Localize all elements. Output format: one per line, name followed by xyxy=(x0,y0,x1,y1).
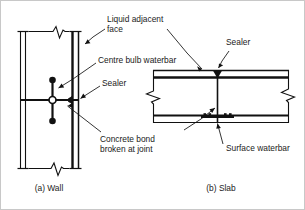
technical-diagram: (a) Wall Liquid adjacent face Centre bul… xyxy=(1,1,305,210)
wall-top-break-symbol xyxy=(29,27,70,39)
wall-annotations: Liquid adjacent face Centre bulb waterba… xyxy=(59,14,177,154)
concrete-bond-label-line1: Concrete bond xyxy=(100,134,155,144)
slab-diagram: (b) Slab xyxy=(147,70,295,193)
wall-sealer-label: Sealer xyxy=(102,78,126,88)
centre-bulb-waterbar-leader xyxy=(59,63,97,88)
liquid-adjacent-face-leader xyxy=(85,29,105,44)
wall-sealer-symbol xyxy=(67,96,73,105)
figure-container: (a) Wall Liquid adjacent face Centre bul… xyxy=(0,0,305,210)
concrete-bond-label-line2: broken at joint xyxy=(100,144,153,154)
surface-waterbar-leader xyxy=(216,124,223,145)
liquid-adjacent-face-slab-leader xyxy=(167,29,202,72)
wall-bottom-break-symbol xyxy=(29,163,70,176)
centre-bulb-waterbar-symbol xyxy=(49,77,56,125)
surface-waterbar-label: Surface waterbar xyxy=(226,143,290,153)
slab-sealer-leader xyxy=(219,51,230,68)
slab-annotations: Sealer Surface waterbar xyxy=(167,29,290,153)
slab-sealer-label: Sealer xyxy=(226,37,250,47)
centre-bulb-waterbar-label: Centre bulb waterbar xyxy=(98,55,176,65)
wall-caption: (a) Wall xyxy=(35,183,64,193)
concrete-bond-slab-leader xyxy=(184,108,215,130)
liquid-adjacent-face-label-line2: face xyxy=(107,24,123,34)
wall-sealer-leader xyxy=(81,86,101,99)
slab-caption: (b) Slab xyxy=(206,183,236,193)
liquid-adjacent-face-label-line1: Liquid adjacent xyxy=(107,14,164,24)
